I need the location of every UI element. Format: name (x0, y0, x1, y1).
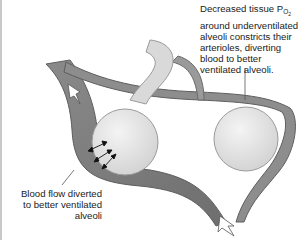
label-top-subscript: O2 (283, 8, 291, 15)
label-top-prefix: Decreased tissue P (200, 3, 283, 14)
alveolus-left (92, 109, 158, 175)
label-decreased-po2: Decreased tissue PO2 around underventila… (200, 3, 304, 75)
label-top-rest: around underventilated alveoli constrict… (200, 20, 298, 75)
leader-line-bottom (62, 170, 74, 185)
flow-arrow-bottom-right (218, 216, 234, 236)
label-blood-flow-diverted: Blood flow diverted to better ventilated… (18, 188, 102, 221)
alveolus-right (214, 107, 278, 171)
